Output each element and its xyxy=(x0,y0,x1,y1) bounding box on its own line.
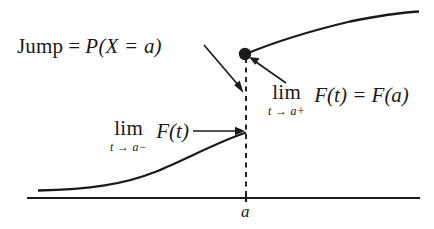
left-limit-arrow xyxy=(193,127,245,135)
left-lim-subscript: t → a− xyxy=(110,141,147,153)
axis-tick-label-a: a xyxy=(241,203,250,220)
jump-equation-label: Jump=P(X = a) xyxy=(17,36,162,57)
left-lim-word: lim xyxy=(114,118,143,139)
left-limit-operator: lim t → a− xyxy=(110,118,147,153)
jump-point-dot xyxy=(239,48,251,60)
jump-equals-sign: = xyxy=(68,34,80,58)
cdf-jump-discontinuity-figure: Jump=P(X = a) lim t → a+ F(t) = F(a) lim… xyxy=(0,0,434,229)
right-lim-subscript: t → a+ xyxy=(268,105,305,117)
right-lim-word: lim xyxy=(272,82,301,103)
left-limit-expression: lim t → a− F(t) xyxy=(110,118,189,153)
jump-rhs-text: P(X = a) xyxy=(85,34,161,58)
right-limit-body: F(t) = F(a) xyxy=(314,82,409,108)
jump-arrow xyxy=(204,45,244,93)
right-limit-expression: lim t → a+ F(t) = F(a) xyxy=(268,82,409,117)
left-limit-body: F(t) xyxy=(156,118,189,144)
jump-lhs-text: Jump xyxy=(17,34,63,58)
cdf-upper-branch-curve xyxy=(246,12,420,55)
right-limit-operator: lim t → a+ xyxy=(268,82,305,117)
